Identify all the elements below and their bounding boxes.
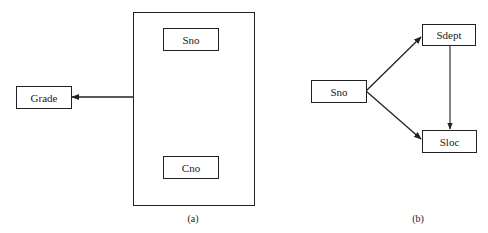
- node-sno-a: Sno: [163, 28, 219, 51]
- node-sloc-label: Sloc: [440, 136, 460, 148]
- edge-sno-to-sloc: [366, 91, 421, 139]
- node-sno-a-label: Sno: [182, 34, 199, 46]
- node-sno-b: Sno: [311, 80, 367, 103]
- node-grade: Grade: [16, 86, 72, 109]
- caption-a: (a): [187, 213, 198, 224]
- caption-b: (b): [412, 213, 424, 224]
- node-sloc: Sloc: [422, 130, 477, 153]
- node-cno: Cno: [163, 156, 219, 179]
- node-sno-b-label: Sno: [330, 86, 347, 98]
- node-sdept-label: Sdept: [436, 29, 461, 41]
- node-grade-label: Grade: [31, 92, 58, 104]
- node-cno-label: Cno: [182, 162, 200, 174]
- node-sdept: Sdept: [422, 24, 476, 46]
- edge-sno-to-sdept: [366, 37, 421, 91]
